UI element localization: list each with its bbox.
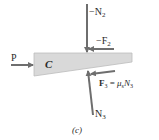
force-f3-arrow [91, 71, 115, 74]
force-f2-label: −F2 [96, 35, 111, 48]
figure-caption: (c) [72, 125, 82, 135]
force-f3-label: F3 = μsN3 [99, 78, 133, 89]
body-label: C [45, 58, 53, 70]
force-n3-arrow [88, 71, 93, 115]
free-body-diagram: C P −N2 −F2 F3 = μsN3 N3 (c) [0, 0, 159, 140]
force-n2-label: −N2 [89, 6, 106, 19]
force-p-label: P [11, 52, 17, 63]
force-n3-label: N3 [95, 108, 106, 121]
